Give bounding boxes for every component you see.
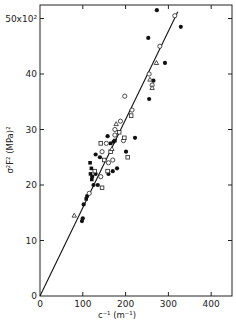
x-axis-title: c⁻¹ (m⁻¹)	[98, 310, 136, 320]
x-tick-label: 200	[117, 299, 134, 309]
data-point-open-square	[99, 142, 103, 146]
data-point-filled-circle	[91, 183, 95, 187]
data-point-filled-square	[90, 178, 94, 182]
data-point-filled-circle	[96, 183, 100, 187]
data-point-filled-square	[113, 139, 117, 143]
scatter-chart: 0100200300400 01020304050x10² c⁻¹ (m⁻¹) …	[0, 0, 236, 323]
data-point-open-triangle	[114, 122, 118, 126]
data-point-filled-circle	[82, 202, 86, 206]
data-point-open-circle	[106, 161, 110, 165]
data-point-open-circle	[104, 141, 108, 145]
data-point-filled-square	[109, 142, 113, 146]
data-point-filled-circle	[133, 136, 137, 140]
y-axis-ticks: 01020304050x10²	[5, 14, 232, 302]
data-point-open-circle	[100, 150, 104, 154]
data-point-open-square	[100, 186, 104, 190]
data-point-filled-circle	[124, 150, 128, 154]
data-point-filled-circle	[94, 152, 98, 156]
y-tick-label: 50x10²	[5, 14, 37, 24]
data-point-open-triangle	[110, 147, 114, 151]
x-tick-label: 0	[37, 299, 43, 309]
data-point-open-circle	[158, 44, 162, 48]
y-tick-label: 30	[26, 125, 38, 135]
y-tick-label: 20	[26, 180, 38, 190]
y-tick-label: 10	[26, 236, 38, 246]
data-point-filled-circle	[115, 166, 119, 170]
data-point-open-square	[93, 169, 97, 173]
data-point-open-square	[106, 169, 110, 173]
data-point-open-triangle	[72, 213, 76, 217]
data-point-open-circle	[123, 94, 127, 98]
data-point-open-square	[123, 136, 127, 140]
data-point-filled-circle	[80, 219, 84, 223]
x-tick-label: 100	[74, 299, 91, 309]
data-point-filled-circle	[106, 134, 110, 138]
data-point-filled-circle	[147, 97, 151, 101]
data-point-open-circle	[130, 108, 134, 112]
data-point-open-triangle	[154, 61, 158, 65]
data-point-open-triangle	[148, 77, 152, 81]
data-point-open-circle	[113, 127, 117, 131]
data-point-filled-square	[88, 161, 92, 165]
data-point-open-circle	[147, 72, 151, 76]
x-tick-label: 400	[203, 299, 220, 309]
data-point-open-circle	[118, 119, 122, 123]
data-point-open-square	[117, 130, 121, 134]
data-point-open-square	[129, 114, 133, 118]
data-point-open-circle	[173, 14, 177, 18]
data-point-open-circle	[113, 133, 117, 137]
data-point-open-circle	[87, 191, 91, 195]
data-point-filled-square	[84, 197, 88, 201]
data-point-filled-circle	[111, 169, 115, 173]
plot-frame	[40, 5, 232, 296]
data-point-filled-square	[89, 172, 93, 176]
y-axis-title: σ²F² (MPa)²	[5, 126, 15, 173]
data-point-filled-circle	[155, 8, 159, 12]
data-point-open-circle	[111, 158, 115, 162]
x-tick-label: 300	[160, 299, 177, 309]
data-point-open-square	[126, 155, 130, 159]
data-point-filled-circle	[146, 36, 150, 40]
data-point-filled-circle	[98, 155, 102, 159]
data-point-open-square	[102, 158, 106, 162]
data-point-filled-circle	[163, 61, 167, 65]
y-tick-label: 40	[26, 69, 38, 79]
data-point-filled-circle	[179, 25, 183, 29]
y-tick-label: 0	[31, 291, 37, 301]
fit-line	[40, 12, 178, 296]
data-point-open-circle	[99, 175, 103, 179]
